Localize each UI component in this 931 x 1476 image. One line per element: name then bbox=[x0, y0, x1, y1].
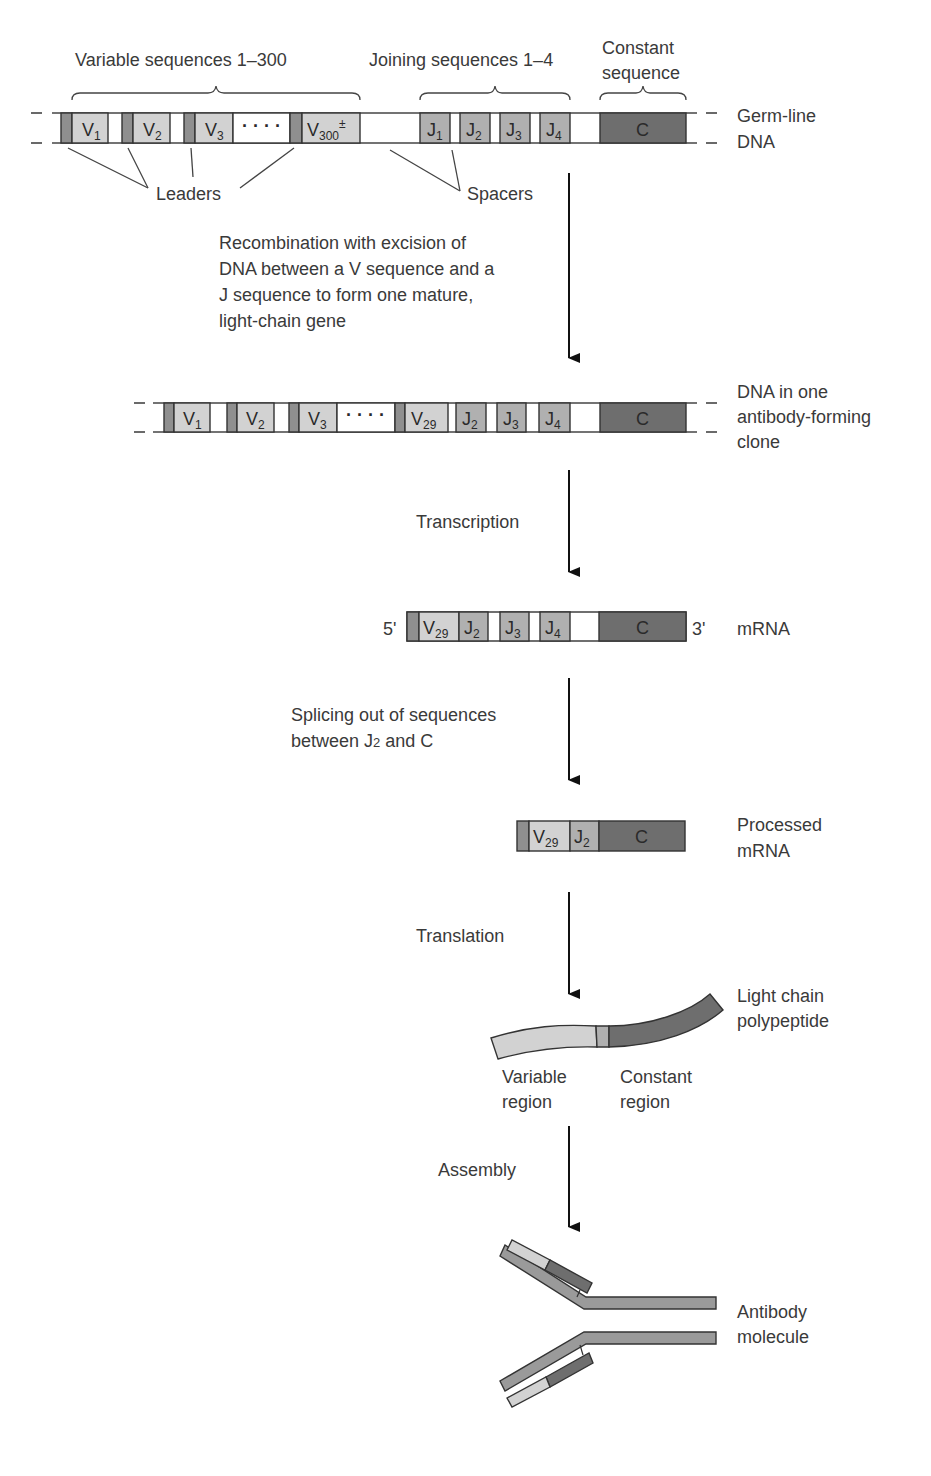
three-prime-label: 3' bbox=[692, 619, 705, 639]
splicing-text-2: between J2 and C bbox=[291, 731, 433, 751]
recombination-text-4: light-chain gene bbox=[219, 311, 346, 331]
variable-region-label-1: Variable bbox=[502, 1067, 567, 1087]
constant-label: C bbox=[635, 827, 648, 847]
splicing-text-1: Splicing out of sequences bbox=[291, 705, 496, 725]
mrna-label: mRNA bbox=[737, 619, 790, 639]
heavy-chain-lower bbox=[500, 1332, 716, 1391]
processed-label-2: mRNA bbox=[737, 841, 790, 861]
constant-header-1: Constant bbox=[602, 38, 674, 58]
leader-segment bbox=[164, 403, 174, 432]
leader-pointer bbox=[128, 148, 148, 188]
leader-segment bbox=[122, 113, 133, 143]
leader-pointer bbox=[68, 148, 148, 188]
polypeptide-section: Light chain polypeptide Variable region … bbox=[491, 986, 829, 1112]
leader-segment bbox=[290, 113, 302, 143]
recombination-text-3: J sequence to form one mature, bbox=[219, 285, 473, 305]
constant-label: C bbox=[636, 120, 649, 140]
clone-label-1: DNA in one bbox=[737, 382, 828, 402]
constant-label: C bbox=[636, 409, 649, 429]
recombination-step: Recombination with excision of DNA betwe… bbox=[219, 233, 495, 331]
constant-region-shape bbox=[609, 994, 723, 1047]
variable-region-label-2: region bbox=[502, 1092, 552, 1112]
splicing-step: Splicing out of sequences between J2 and… bbox=[291, 705, 496, 751]
variable-brace bbox=[72, 86, 360, 100]
processed-mrna-section: V29 J2 C Processed mRNA bbox=[517, 815, 822, 861]
leader-pointer bbox=[191, 148, 193, 177]
processed-label-1: Processed bbox=[737, 815, 822, 835]
leader-segment bbox=[289, 403, 299, 432]
ellipsis: · · · · bbox=[346, 405, 385, 425]
antibody-molecule: Antibody molecule bbox=[500, 1240, 809, 1407]
leader-pointer bbox=[240, 148, 294, 188]
antibody-gene-diagram: Variable sequences 1–300 Joining sequenc… bbox=[0, 0, 931, 1476]
leader-segment bbox=[61, 113, 72, 143]
leader-segment bbox=[517, 821, 529, 851]
polypeptide-label-2: polypeptide bbox=[737, 1011, 829, 1031]
constant-label: C bbox=[636, 618, 649, 638]
joining-brace bbox=[420, 86, 570, 100]
constant-region-label-2: region bbox=[620, 1092, 670, 1112]
clone-label-3: clone bbox=[737, 432, 780, 452]
recombination-text-1: Recombination with excision of bbox=[219, 233, 467, 253]
antibody-label-1: Antibody bbox=[737, 1302, 807, 1322]
germline-label-1: Germ-line bbox=[737, 106, 816, 126]
germline-section: Variable sequences 1–300 Joining sequenc… bbox=[31, 38, 816, 204]
joining-region-shape bbox=[596, 1026, 609, 1047]
antibody-label-2: molecule bbox=[737, 1327, 809, 1347]
leader-segment bbox=[184, 113, 195, 143]
five-prime-label: 5' bbox=[383, 619, 396, 639]
polypeptide-label-1: Light chain bbox=[737, 986, 824, 1006]
variable-region-shape bbox=[491, 1025, 597, 1059]
clone-label-2: antibody-forming bbox=[737, 407, 871, 427]
spacer-pointer bbox=[390, 150, 460, 191]
recombination-text-2: DNA between a V sequence and a bbox=[219, 259, 495, 279]
spacers-label: Spacers bbox=[467, 184, 533, 204]
germline-label-2: DNA bbox=[737, 132, 775, 152]
leader-segment bbox=[227, 403, 237, 432]
leader-segment bbox=[407, 612, 419, 641]
clone-dna-section: V1 V2 V3 · · · · V29 J2 J3 J4 C DNA in o… bbox=[134, 382, 871, 452]
leader-segment bbox=[395, 403, 405, 432]
mrna-section: 5' V29 J2 J3 J4 C 3' mRNA bbox=[383, 612, 790, 641]
spacer-pointer bbox=[452, 150, 460, 191]
leaders-label: Leaders bbox=[156, 184, 221, 204]
constant-header-2: sequence bbox=[602, 63, 680, 83]
translation-label: Translation bbox=[416, 926, 504, 946]
joining-header: Joining sequences 1–4 bbox=[369, 50, 553, 70]
constant-brace bbox=[600, 86, 686, 100]
assembly-label: Assembly bbox=[438, 1160, 516, 1180]
ellipsis: · · · · bbox=[242, 116, 281, 136]
variable-header: Variable sequences 1–300 bbox=[75, 50, 287, 70]
transcription-label: Transcription bbox=[416, 512, 519, 532]
constant-region-label-1: Constant bbox=[620, 1067, 692, 1087]
